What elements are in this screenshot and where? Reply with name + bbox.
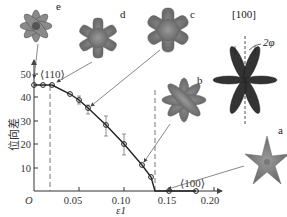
svg-text:40: 40 (21, 92, 32, 103)
y-axis-label: 位向差 (7, 118, 20, 151)
crystal-c (146, 8, 190, 52)
svg-text:0.05: 0.05 (64, 195, 82, 206)
svg-text:0.15: 0.15 (158, 195, 176, 206)
label-a: a (278, 124, 283, 136)
direction-label: [100] (232, 8, 256, 20)
chart: 10 20 30 40 50 O 0.05 0.10 0.15 0.20 ε1 … (0, 0, 287, 217)
angle-label: 2φ (263, 36, 275, 48)
annotation-110: ⟨110⟩ (40, 68, 65, 80)
x-axis-label: ε1 (116, 204, 126, 216)
svg-text:O: O (25, 195, 33, 206)
svg-text:50: 50 (21, 69, 32, 80)
label-c: c (190, 8, 195, 20)
crystal-e (20, 10, 52, 42)
crystal-a (245, 136, 287, 184)
y-tick-labels: 10 20 30 40 50 (21, 69, 32, 174)
crystal-d (78, 18, 118, 58)
svg-text:10: 10 (21, 163, 32, 174)
label-e: e (56, 0, 61, 12)
label-b: b (197, 74, 203, 86)
orientation-diagram-b (213, 36, 277, 124)
vertical-guides (50, 86, 155, 191)
svg-text:30: 30 (21, 116, 32, 127)
label-d: d (120, 8, 126, 20)
svg-text:0.20: 0.20 (201, 195, 219, 206)
svg-text:20: 20 (21, 139, 32, 150)
